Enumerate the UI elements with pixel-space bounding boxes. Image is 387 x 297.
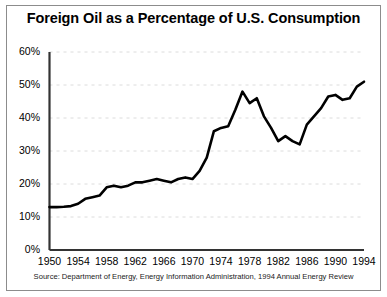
y-tick-label: 40% xyxy=(0,111,40,123)
y-tick-label: 10% xyxy=(0,210,40,222)
gridlines xyxy=(50,52,365,217)
y-tick-label: 50% xyxy=(0,78,40,90)
source-note: Source: Department of Energy, Energy Inf… xyxy=(0,272,387,281)
line-chart-svg xyxy=(0,0,387,297)
chart-figure: Foreign Oil as a Percentage of U.S. Cons… xyxy=(0,0,387,297)
y-tick-label: 60% xyxy=(0,45,40,57)
y-tick-label: 0% xyxy=(0,243,40,255)
y-tick-label: 20% xyxy=(0,177,40,189)
x-tick-label: 1994 xyxy=(344,255,384,267)
data-series-line xyxy=(50,82,365,207)
plot-area xyxy=(0,0,387,297)
y-tick-label: 30% xyxy=(0,144,40,156)
